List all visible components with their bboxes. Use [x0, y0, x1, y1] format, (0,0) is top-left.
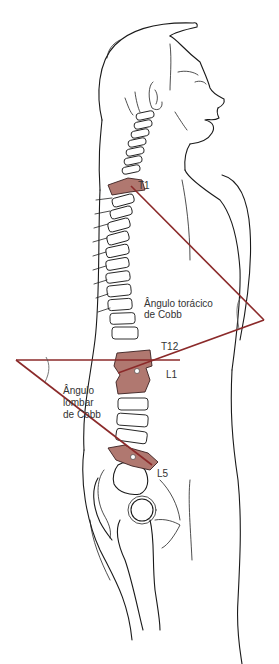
thoracic-vertebrae	[93, 178, 145, 339]
label-l1: L1	[166, 369, 177, 380]
head-outline	[99, 23, 224, 170]
cervical-vertebrae	[122, 110, 155, 175]
label-l5: L5	[157, 468, 168, 479]
thoracic-cobb-angle-label-line1: Ângulo torácico	[144, 298, 213, 309]
label-t1: T1	[138, 180, 150, 191]
thoracic-cobb-angle-label-line2: de Cobb	[144, 309, 182, 320]
spine-cobb-angle-diagram	[0, 0, 279, 664]
body-outline	[83, 120, 251, 664]
pelvis-and-femur	[90, 462, 180, 630]
lumbar-cobb-angle-label-line2: lombar	[63, 397, 94, 408]
label-t12: T12	[161, 341, 178, 352]
lumbar-cobb-angle-label-line1: Ângulo	[63, 385, 94, 396]
lumbar-cobb-angle-label-line3: de Cobb	[63, 409, 101, 420]
thoracic-cobb-angle-lines	[118, 186, 264, 373]
